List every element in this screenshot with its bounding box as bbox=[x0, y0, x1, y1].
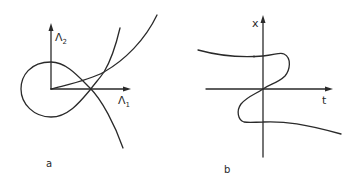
t-axis-arrow-icon bbox=[325, 87, 333, 92]
lambda1-label: Λ1 bbox=[118, 94, 130, 109]
curve-dot bbox=[253, 56, 255, 58]
figure: Λ2 Λ1 a x t b bbox=[0, 0, 357, 187]
panel-b: x t b bbox=[198, 15, 341, 175]
loop-curve bbox=[21, 28, 123, 148]
t-axis-label: t bbox=[322, 94, 327, 107]
x-axis-label: x bbox=[252, 17, 259, 30]
lambda1-axis-arrow-icon bbox=[123, 87, 131, 92]
lambda2-axis-arrow-icon bbox=[49, 23, 54, 31]
panel-label-b: b bbox=[224, 164, 230, 175]
lambda2-label: Λ2 bbox=[55, 31, 67, 46]
x-axis-arrow-icon bbox=[261, 15, 266, 23]
panel-label-a: a bbox=[46, 158, 52, 169]
shallow-curve bbox=[51, 15, 157, 89]
panel-a: Λ2 Λ1 a bbox=[21, 15, 157, 169]
s-curve bbox=[198, 50, 341, 134]
